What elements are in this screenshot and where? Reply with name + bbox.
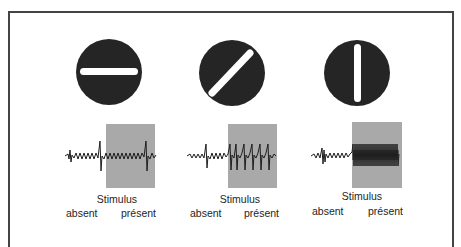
- light-bar-icon: [80, 68, 138, 75]
- light-bar-icon: [354, 44, 361, 102]
- stimulus-label: Stimulus: [322, 190, 402, 202]
- absent-label: absent: [312, 205, 344, 217]
- absent-label: absent: [190, 207, 222, 219]
- spike-trace-weak: [60, 122, 170, 192]
- absent-label: absent: [66, 207, 98, 219]
- stimulus-disc-vertical: [323, 39, 391, 107]
- present-label: présent: [244, 207, 279, 219]
- present-label: présent: [121, 207, 156, 219]
- stimulus-disc-horizontal: [75, 38, 143, 106]
- stimulus-label: Stimulus: [200, 193, 280, 205]
- spike-trace-moderate: [182, 122, 292, 192]
- present-label: présent: [368, 205, 403, 217]
- stimulus-disc-oblique: [198, 39, 266, 107]
- spike-trace-strong: [306, 120, 416, 192]
- stimulus-label: Stimulus: [77, 193, 157, 205]
